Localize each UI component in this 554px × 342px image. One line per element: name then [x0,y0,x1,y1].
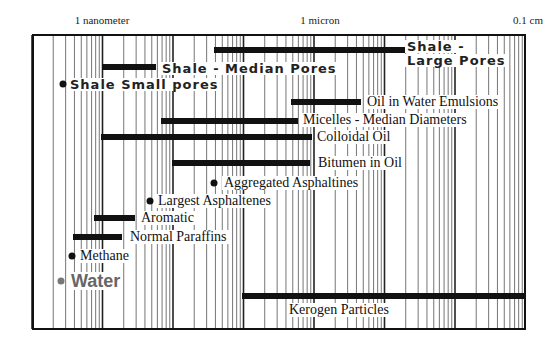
label-methane: Methane [78,249,131,263]
label-shale-small: Shale Small pores [68,78,221,91]
label-micelles: Micelles - Median Diameters [301,113,469,127]
label-shale-median: Shale - Median Pores [160,62,339,75]
label-aromatic: Aromatic [139,211,196,225]
dot-largest-asphaltenes [147,198,154,205]
dot-water [58,278,65,285]
bar-shale-large-pores [214,47,406,53]
label-oil-water: Oil in Water Emulsions [365,95,500,109]
bar-normal-paraffins [73,234,122,240]
bar-colloidal-oil [101,134,312,140]
dot-methane [69,253,76,260]
bar-kerogen [242,293,525,299]
bar-shale-median-pores [102,64,156,70]
label-shale-large-2: Large Pores [405,54,508,67]
bar-aromatic [94,215,135,221]
label-normal-paraffins: Normal Paraffins [128,230,229,244]
bar-bitumen [172,160,310,166]
label-bitumen: Bitumen in Oil [316,156,404,170]
dot-aggregated-asphaltines [211,180,218,187]
dot-shale-small-pores [60,81,67,88]
bar-micelles [161,118,298,124]
label-water: Water [69,272,122,290]
label-colloidal: Colloidal Oil [315,130,393,144]
label-aggregated-asphaltines: Aggregated Asphaltines [222,176,360,190]
label-largest-asphaltenes: Largest Asphaltenes [156,194,273,208]
bar-oil-water-emulsions [291,99,361,105]
label-shale-large-1: Shale - [405,40,467,53]
label-kerogen: Kerogen Particles [287,303,391,317]
